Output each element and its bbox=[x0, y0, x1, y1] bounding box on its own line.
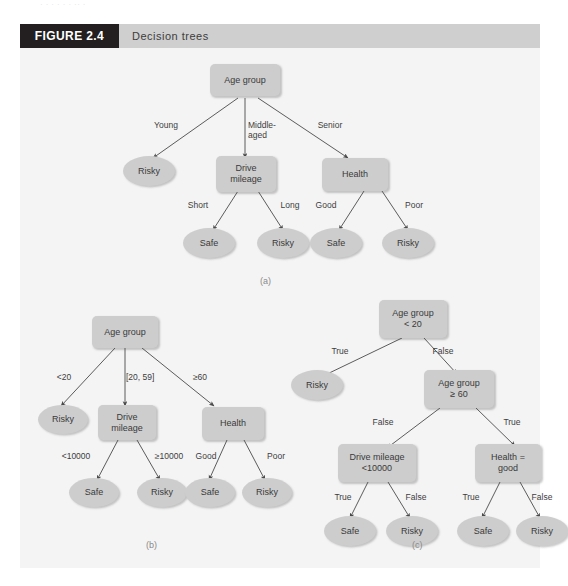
tree-a-node-risky-young[interactable]: Risky bbox=[123, 156, 175, 186]
tree-a-node-health[interactable]: Health bbox=[322, 158, 388, 191]
tree-a-node-safe-short[interactable]: Safe bbox=[183, 228, 235, 258]
tree-c-node-drive-mileage[interactable]: Drive mileage<10000 bbox=[338, 444, 416, 482]
page-top-cropped-text: · · · · · · ·· · bbox=[40, 0, 300, 10]
tree-b-edge-label-over-60: ≥60 bbox=[180, 372, 220, 382]
tree-a-node-risky-young-label: Risky bbox=[136, 166, 162, 177]
tree-c-edge-label-age60-true: True bbox=[494, 417, 530, 427]
tree-b-node-safe-good-label: Safe bbox=[199, 487, 222, 498]
tree-a-edge-label-young: Young bbox=[144, 120, 188, 130]
tree-b-node-safe-good[interactable]: Safe bbox=[185, 478, 235, 507]
tree-a-node-drive-mileage[interactable]: Drivemileage bbox=[216, 156, 276, 192]
tree-b-node-risky-poor[interactable]: Risky bbox=[242, 478, 292, 507]
tree-a-node-safe-good[interactable]: Safe bbox=[310, 228, 362, 258]
tree-b-edge-label-poor: Poor bbox=[256, 451, 296, 461]
tree-b-node-risky-young[interactable]: Risky bbox=[38, 405, 88, 434]
tree-c-edge-label-root-false: False bbox=[424, 346, 462, 356]
tree-c-node-safe-right[interactable]: Safe bbox=[457, 516, 509, 546]
tree-b-node-risky-poor-label: Risky bbox=[254, 487, 280, 498]
tree-c-node-root-label: Age group< 20 bbox=[390, 308, 436, 330]
tree-c-node-root[interactable]: Age group< 20 bbox=[379, 300, 447, 338]
tree-a-node-risky-long-label: Risky bbox=[270, 238, 296, 249]
figure-header: FIGURE 2.4 Decision trees bbox=[20, 24, 540, 48]
tree-b-node-health-label: Health bbox=[218, 418, 248, 429]
tree-c-edge-label-root-true: True bbox=[322, 346, 358, 356]
tree-b-node-safe-low[interactable]: Safe bbox=[69, 478, 119, 507]
tree-b-node-health[interactable]: Health bbox=[202, 407, 264, 440]
tree-c-node-safe-left[interactable]: Safe bbox=[324, 516, 376, 546]
figure-caption: Decision trees bbox=[132, 24, 209, 48]
tree-a-caption: (a) bbox=[260, 276, 271, 287]
tree-a-edge-label-middle-aged: Middle-aged bbox=[248, 120, 294, 140]
tree-c-node-age-60-label: Age group≥ 60 bbox=[436, 378, 482, 400]
tree-b-edge-label-under-20: <20 bbox=[44, 372, 84, 382]
tree-a-edge-label-good: Good bbox=[306, 200, 346, 210]
tree-c-edge-label-dm-true: True bbox=[326, 492, 360, 502]
tree-b-edge-label-good: Good bbox=[186, 451, 226, 461]
tree-c-node-risky-true[interactable]: Risky bbox=[291, 370, 343, 400]
tree-c-caption: (c) bbox=[412, 540, 423, 551]
tree-c-edge-label-dm-false: False bbox=[398, 492, 434, 502]
tree-a-node-risky-poor[interactable]: Risky bbox=[382, 228, 434, 258]
figure-body: Age group Risky Drivemileage Health Safe… bbox=[20, 48, 540, 568]
tree-a-node-drive-mileage-label: Drivemileage bbox=[228, 163, 264, 185]
tree-a-node-safe-good-label: Safe bbox=[325, 238, 348, 249]
tree-c-node-safe-right-label: Safe bbox=[472, 526, 495, 537]
tree-c-node-risky-true-label: Risky bbox=[304, 380, 330, 391]
tree-a-edge-label-poor: Poor bbox=[394, 200, 434, 210]
tree-c-node-safe-left-label: Safe bbox=[339, 526, 362, 537]
tree-b-node-risky-young-label: Risky bbox=[50, 414, 76, 425]
tree-b-node-risky-high[interactable]: Risky bbox=[137, 478, 187, 507]
tree-c-node-health-good-label: Health =good bbox=[489, 452, 527, 474]
tree-a-node-health-label: Health bbox=[340, 169, 370, 180]
tree-a-edge-label-senior: Senior bbox=[308, 120, 352, 130]
tree-c-edge-label-age60-false: False bbox=[364, 417, 402, 427]
tree-a-edge-label-short: Short bbox=[178, 200, 218, 210]
tree-c-edge-label-hg-true: True bbox=[454, 492, 488, 502]
tree-a-node-safe-short-label: Safe bbox=[198, 238, 221, 249]
tree-b-node-safe-low-label: Safe bbox=[83, 487, 106, 498]
tree-c-node-age-60[interactable]: Age group≥ 60 bbox=[424, 370, 494, 408]
tree-a-node-risky-poor-label: Risky bbox=[395, 238, 421, 249]
tree-c-edge-label-hg-false: False bbox=[524, 492, 560, 502]
tree-b-node-drive-mileage-label: Drivemileage bbox=[109, 412, 145, 434]
tree-b-caption: (b) bbox=[146, 540, 157, 551]
tree-c-node-risky-right[interactable]: Risky bbox=[516, 516, 568, 546]
tree-a-node-root-label: Age group bbox=[222, 75, 268, 86]
tree-b-edge-label-range-20-59: [20, 59] bbox=[126, 372, 176, 382]
tree-a-node-risky-long[interactable]: Risky bbox=[257, 228, 309, 258]
tree-c-node-risky-left-label: Risky bbox=[399, 526, 425, 537]
tree-b-node-drive-mileage[interactable]: Drivemileage bbox=[98, 405, 156, 440]
tree-c-node-health-good[interactable]: Health =good bbox=[475, 444, 541, 482]
tree-b-edge-label-under-10000: <10000 bbox=[50, 451, 102, 461]
tree-a-edge-label-long: Long bbox=[270, 200, 310, 210]
tree-b-node-root[interactable]: Age group bbox=[92, 316, 158, 348]
tree-b-node-risky-high-label: Risky bbox=[149, 487, 175, 498]
tree-c-node-risky-right-label: Risky bbox=[529, 526, 555, 537]
tree-c-node-drive-mileage-label: Drive mileage<10000 bbox=[347, 452, 406, 474]
tree-a-node-root[interactable]: Age group bbox=[210, 64, 280, 96]
tree-b-node-root-label: Age group bbox=[102, 327, 148, 338]
figure-number: FIGURE 2.4 bbox=[20, 24, 119, 48]
